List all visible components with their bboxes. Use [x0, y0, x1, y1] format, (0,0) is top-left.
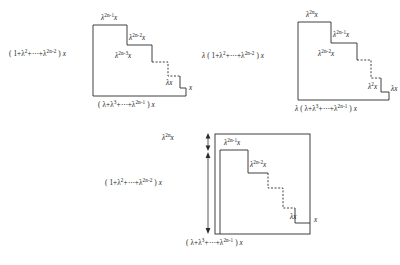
figure-2-step-label-2: λ2n-1x — [333, 32, 349, 40]
figure-2-right-label: λx — [391, 86, 398, 93]
figure-3-top-measure-label: λ2nx — [162, 135, 174, 143]
figure-1-step-label-3: λ2n-3x — [115, 53, 131, 61]
figure-3-step-label-2: λ2n-2x — [250, 162, 266, 170]
figure-3-left-label: ( 1+λ2+⋯+λ2n-2 ) x — [105, 180, 162, 188]
figure-3: λ2nx λ2n-1x λ2n-2x λx x ( 1+λ2+⋯+λ2n-2 )… — [100, 128, 330, 265]
figure-1-left-label: ( 1+λ2+⋯+λ2n-2 ) x — [9, 51, 66, 59]
figure-3-step-label-1: λ2n-1x — [224, 140, 240, 148]
figure-2-bottom-label: λ ( λ+λ3+⋯+λ2n-1 ) x — [295, 106, 357, 114]
figure-2-step-label-4: λ2x — [368, 84, 377, 92]
figure-2-step-label-3: λ2n-2x — [318, 51, 334, 59]
figure-1-bottom-label: ( λ+λ3+⋯+λ2n-1 ) x — [98, 102, 155, 110]
figure-1: λ2n-1x λ2n-2x λ2n-3x λx x ( 1+λ2+⋯+λ2n-2… — [0, 0, 200, 128]
figure-2: λ2nx λ2n-1x λ2n-2x λ2x λx λ ( 1+λ2+⋯+λ2n… — [200, 0, 400, 128]
figure-sheet: λ2n-1x λ2n-2x λ2n-3x λx x ( 1+λ2+⋯+λ2n-2… — [0, 0, 400, 265]
figure-1-right-label: x — [189, 85, 192, 92]
figure-2-step-label-1: λ2nx — [306, 12, 318, 20]
figure-2-left-label: λ ( 1+λ2+⋯+λ2n-2 ) x — [202, 53, 264, 61]
figure-1-step-label-1: λ2n-1x — [101, 15, 117, 23]
figure-3-right-label: x — [314, 217, 317, 224]
figure-1-step-label-4: λx — [166, 80, 173, 87]
figure-1-step-label-2: λ2n-2x — [129, 35, 145, 43]
figure-3-bottom-label: ( λ+λ3+⋯+λ2n-1 ) x — [186, 240, 243, 248]
figure-3-step-label-3: λx — [290, 214, 297, 221]
